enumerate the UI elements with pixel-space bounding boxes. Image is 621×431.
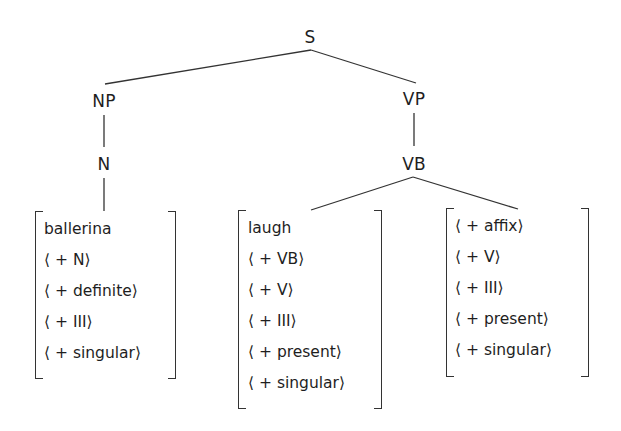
- node-vb: VB: [402, 154, 426, 174]
- edge-vb-laugh: [311, 177, 413, 210]
- feature: ⟨ + III⟩: [44, 307, 141, 338]
- feature-matrix-laugh: laugh ⟨ + VB⟩ ⟨ + V⟩ ⟨ + III⟩ ⟨ + presen…: [238, 210, 382, 409]
- feature: ⟨ + III⟩: [455, 273, 552, 304]
- edge-vb-affix: [413, 177, 518, 209]
- right-bracket: [581, 208, 589, 377]
- right-bracket: [168, 211, 176, 379]
- edge-s-np: [105, 50, 311, 84]
- lexeme: ballerina: [44, 214, 141, 245]
- left-bracket: [35, 211, 43, 379]
- feature-matrix-ballerina: ballerina ⟨ + N⟩ ⟨ + definite⟩ ⟨ + III⟩ …: [35, 211, 176, 379]
- lexeme: laugh: [248, 213, 345, 244]
- feature-matrix-affix: ⟨ + affix⟩ ⟨ + V⟩ ⟨ + III⟩ ⟨ + present⟩ …: [446, 208, 589, 377]
- feature: ⟨ + III⟩: [248, 306, 345, 337]
- feature: ⟨ + singular⟩: [44, 338, 141, 369]
- feature: ⟨ + present⟩: [455, 304, 552, 335]
- edge-s-vp: [311, 50, 416, 83]
- node-vp: VP: [403, 89, 425, 109]
- node-s: S: [305, 27, 316, 47]
- node-n: N: [98, 154, 111, 174]
- feature: ⟨ + present⟩: [248, 337, 345, 368]
- feature: ⟨ + singular⟩: [455, 335, 552, 366]
- left-bracket: [238, 210, 246, 409]
- feature: ⟨ + affix⟩: [455, 211, 552, 242]
- node-np: NP: [92, 91, 115, 111]
- feature: ⟨ + V⟩: [455, 242, 552, 273]
- feature: ⟨ + definite⟩: [44, 276, 141, 307]
- feature: ⟨ + singular⟩: [248, 368, 345, 399]
- feature: ⟨ + VB⟩: [248, 244, 345, 275]
- left-bracket: [446, 208, 454, 377]
- feature: ⟨ + V⟩: [248, 275, 345, 306]
- right-bracket: [374, 210, 382, 409]
- feature: ⟨ + N⟩: [44, 245, 141, 276]
